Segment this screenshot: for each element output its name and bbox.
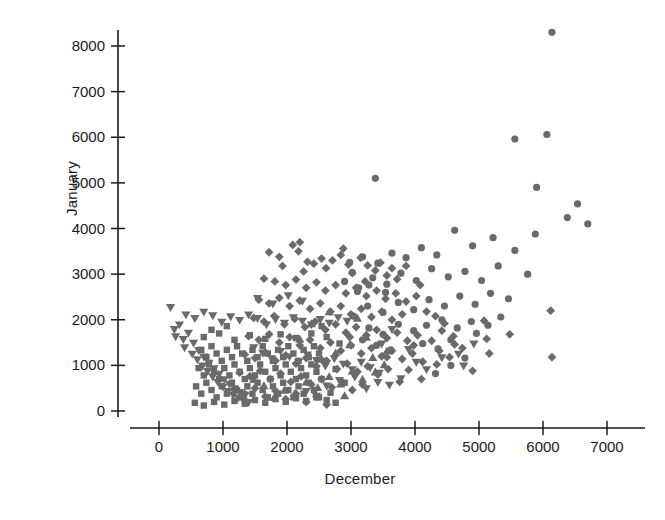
x-tick-label: 6000 [526, 438, 559, 455]
data-point [323, 334, 329, 340]
data-point [383, 281, 390, 288]
data-point [418, 244, 425, 251]
data-point [231, 361, 237, 367]
x-axis-label: December [290, 470, 430, 487]
data-point [419, 340, 426, 347]
data-point [365, 324, 372, 331]
data-point [249, 390, 255, 396]
x-tick-label: 5000 [462, 438, 495, 455]
data-point [511, 135, 518, 142]
data-point [445, 273, 452, 280]
data-point [359, 336, 366, 343]
data-point [221, 365, 227, 371]
data-point [410, 306, 417, 313]
y-tick-label: 1000 [72, 356, 105, 373]
data-point [461, 354, 468, 361]
data-point [487, 290, 494, 297]
data-point [379, 331, 386, 338]
data-point [524, 271, 531, 278]
data-point [229, 354, 235, 360]
data-point [303, 372, 309, 378]
y-tick-label: 2000 [72, 311, 105, 328]
data-point [543, 131, 550, 138]
data-point [213, 350, 219, 356]
data-point [473, 330, 480, 337]
data-point [451, 227, 458, 234]
data-point [397, 270, 404, 277]
data-point [532, 230, 539, 237]
data-point [434, 345, 441, 352]
data-point [564, 214, 571, 221]
data-point [252, 397, 258, 403]
data-point [456, 292, 463, 299]
data-point [425, 296, 432, 303]
data-point [198, 390, 204, 396]
x-tick-label: 7000 [590, 438, 623, 455]
data-point [374, 260, 381, 267]
data-point [548, 29, 555, 36]
data-point [285, 343, 291, 349]
data-point [270, 383, 276, 389]
data-point [379, 309, 386, 316]
data-point [428, 265, 435, 272]
data-point [244, 358, 250, 364]
data-point [423, 322, 430, 329]
data-point [262, 336, 268, 342]
data-point [497, 313, 504, 320]
data-point [192, 400, 198, 406]
data-point [247, 365, 253, 371]
data-point [242, 376, 248, 382]
data-point [364, 302, 371, 309]
data-point [224, 347, 230, 353]
data-point [489, 234, 496, 241]
data-point [203, 380, 209, 386]
data-point [221, 401, 227, 407]
data-point [395, 321, 402, 328]
data-point [341, 278, 348, 285]
x-tick-label: 1000 [206, 438, 239, 455]
data-point [484, 322, 491, 329]
data-point [277, 331, 283, 337]
x-tick-label: 0 [155, 438, 163, 455]
data-point [395, 299, 402, 306]
x-tick-label: 2000 [270, 438, 303, 455]
data-point [461, 268, 468, 275]
data-point [283, 399, 289, 405]
data-point [372, 175, 379, 182]
data-point [584, 220, 591, 227]
y-axis-label: January [63, 124, 80, 254]
data-point [201, 334, 207, 340]
data-point [410, 327, 417, 334]
data-point [438, 316, 445, 323]
data-point [402, 254, 409, 261]
data-point [201, 372, 207, 378]
data-point [387, 346, 394, 353]
data-point [262, 369, 268, 375]
data-point [505, 295, 512, 302]
data-point [308, 361, 314, 367]
data-point [346, 259, 353, 266]
data-point [373, 342, 380, 349]
data-point [236, 369, 242, 375]
data-point [432, 370, 439, 377]
data-point [327, 390, 333, 396]
data-point [254, 354, 260, 360]
x-tick-label: 3000 [334, 438, 367, 455]
data-point [280, 380, 286, 386]
data-point [216, 330, 222, 336]
data-point [469, 242, 476, 249]
data-point [208, 387, 214, 393]
data-point [318, 376, 324, 382]
y-tick-label: 3000 [72, 265, 105, 282]
data-point [413, 277, 420, 284]
data-point [208, 343, 214, 349]
data-point [369, 274, 376, 281]
data-point [332, 400, 338, 406]
data-point [247, 332, 253, 338]
data-point [359, 253, 366, 260]
data-point [257, 361, 263, 367]
data-point [201, 402, 207, 408]
data-point [454, 324, 461, 331]
data-point [365, 281, 372, 288]
data-point [295, 383, 301, 389]
